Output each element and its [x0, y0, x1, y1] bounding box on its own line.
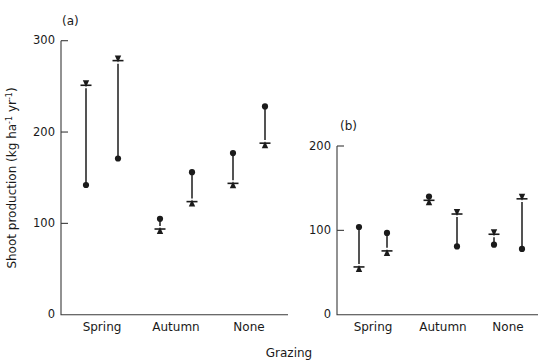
y-tick-label-a-100: 100 [33, 216, 55, 230]
marker-arrowhead [384, 249, 390, 256]
y-tick-label-b-0: 0 [324, 307, 331, 321]
y-tick-label-b-200: 200 [309, 139, 331, 153]
ylabel-mid: yr [5, 100, 19, 116]
marker-arrowhead [262, 141, 268, 148]
scientific-figure: (a) Shoot production (kg ha-1 yr-1) 0100… [0, 0, 552, 364]
category-label-b-spring: Spring [354, 320, 393, 334]
category-label-b-autumn: Autumn [419, 320, 466, 334]
data-marker-b-spring-2 [382, 230, 393, 256]
data-marker-b-autumn-1 [424, 194, 435, 206]
marker-dot [262, 103, 268, 109]
y-tick-label-a-300: 300 [33, 33, 55, 47]
data-marker-a-autumn-2 [187, 169, 198, 207]
category-label-a-autumn: Autumn [152, 320, 199, 334]
data-marker-b-none-2 [517, 194, 528, 252]
data-marker-a-autumn-1 [155, 216, 166, 234]
marker-arrowhead [230, 181, 236, 188]
panel-a-axis-lines [61, 41, 288, 315]
marker-arrowhead [115, 56, 121, 63]
panel-b-axis-lines [337, 146, 538, 315]
panel-b-category-labels: SpringAutumnNone [354, 320, 524, 334]
marker-arrowhead [189, 200, 195, 207]
data-marker-b-none-1 [489, 229, 500, 248]
panel-b-y-ticklabels: 0100200 [309, 139, 331, 322]
marker-arrowhead [83, 80, 89, 87]
y-tick-label-a-200: 200 [33, 125, 55, 139]
marker-dot [230, 150, 236, 156]
data-marker-b-spring-1 [354, 224, 365, 272]
category-label-a-none: None [233, 320, 264, 334]
data-marker-a-none-2 [260, 103, 271, 148]
ylabel-main: Shoot production (kg ha [5, 124, 19, 269]
svg-text:Shoot production (kg ha-1 yr-1: Shoot production (kg ha-1 yr-1) [5, 87, 19, 268]
marker-dot [519, 246, 525, 252]
figure-container: (a) Shoot production (kg ha-1 yr-1) 0100… [0, 0, 552, 364]
panel-a-category-labels: SpringAutumnNone [83, 320, 265, 334]
marker-dot [189, 169, 195, 175]
y-tick-label-b-100: 100 [309, 223, 331, 237]
panel-a-y-ticklabels: 0100200300 [33, 33, 55, 321]
marker-dot [356, 224, 362, 230]
marker-dot [115, 155, 121, 161]
x-axis-title: Grazing [266, 346, 312, 360]
marker-dot [83, 182, 89, 188]
panel-b-axes [337, 146, 538, 315]
ylabel-end: ) [5, 87, 19, 92]
panel-b-data-markers [354, 194, 528, 272]
category-label-a-spring: Spring [83, 320, 122, 334]
ylabel-sup1: -1 [5, 116, 14, 124]
panel-a-label: (a) [62, 14, 79, 28]
y-tick-label-a-0: 0 [48, 307, 55, 321]
marker-arrowhead [454, 209, 460, 216]
category-label-b-none: None [492, 320, 523, 334]
ylabel-sup2: -1 [5, 92, 14, 100]
marker-arrowhead [356, 265, 362, 272]
marker-dot [384, 230, 390, 236]
panel-b-label: (b) [340, 119, 357, 133]
data-marker-a-spring-1 [81, 80, 92, 188]
marker-arrowhead [519, 194, 525, 201]
panel-b: (b) 0100200 SpringAutumnNone [309, 119, 538, 334]
marker-dot [157, 216, 163, 222]
marker-arrowhead [491, 229, 497, 236]
panel-a-axes [61, 41, 288, 315]
panel-a: (a) Shoot production (kg ha-1 yr-1) 0100… [5, 14, 288, 334]
marker-dot [454, 243, 460, 249]
marker-arrowhead [157, 227, 163, 234]
data-marker-a-spring-2 [113, 56, 124, 162]
panel-a-y-axis-title: Shoot production (kg ha-1 yr-1) [5, 87, 19, 268]
data-marker-b-autumn-2 [452, 209, 463, 249]
marker-dot [491, 242, 497, 248]
panel-b-y-ticks [337, 146, 344, 230]
panel-a-data-markers [81, 56, 271, 234]
panel-a-y-ticks [61, 41, 68, 224]
marker-arrowhead [426, 198, 432, 205]
data-marker-a-none-1 [228, 150, 239, 188]
